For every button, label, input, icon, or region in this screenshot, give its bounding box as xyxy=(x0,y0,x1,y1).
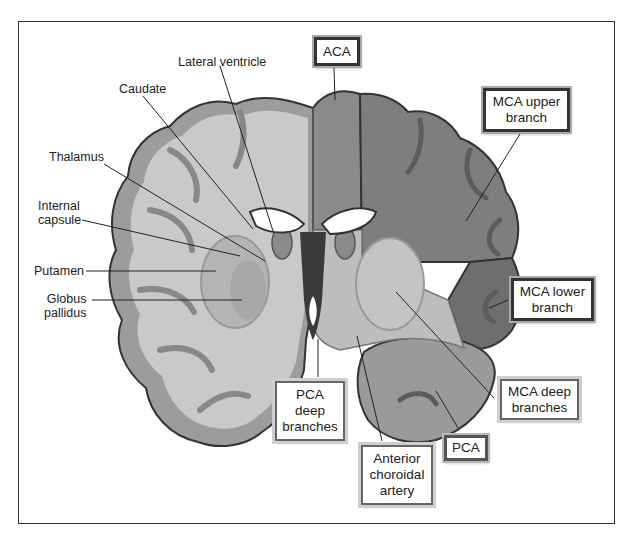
label-thalamus: Thalamus xyxy=(49,150,104,164)
box-mca-deep-branches: MCA deep branches xyxy=(500,379,579,420)
label-internal-capsule: Internal capsule xyxy=(38,199,81,227)
label-lateral-ventricle: Lateral ventricle xyxy=(178,55,266,69)
box-aca: ACA xyxy=(314,37,360,66)
box-pca-deep-branches: PCA deep branches xyxy=(275,381,345,441)
box-anterior-choroidal-artery: Anterior choroidal artery xyxy=(361,445,433,505)
label-globus-pallidus: Globus pallidus xyxy=(44,292,86,320)
label-putamen: Putamen xyxy=(34,264,84,278)
box-pca: PCA xyxy=(444,435,488,461)
box-mca-lower-branch: MCA lower branch xyxy=(511,278,594,321)
label-caudate: Caudate xyxy=(119,82,166,96)
brain-coronal-section xyxy=(0,0,631,539)
box-mca-upper-branch: MCA upper branch xyxy=(483,88,570,132)
